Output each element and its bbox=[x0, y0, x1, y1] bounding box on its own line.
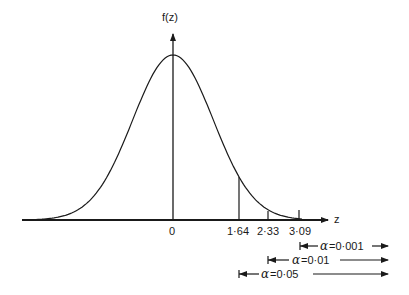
x-axis-label: z bbox=[334, 213, 340, 225]
origin-label: 0 bbox=[169, 225, 175, 237]
alpha-0-01-range: α =0·01 bbox=[268, 253, 388, 267]
y-axis-label: f(z) bbox=[162, 11, 178, 23]
alpha-0-05-range: α =0·05 bbox=[239, 267, 388, 281]
critical-label-1-64: 1·64 bbox=[227, 225, 249, 237]
normal-distribution-diagram: z f(z) 0 1·64 2·33 3·09 α =0·001 α =0·01… bbox=[0, 0, 409, 295]
normal-curve bbox=[28, 55, 302, 220]
critical-label-3-09: 3·09 bbox=[289, 225, 311, 237]
critical-label-2-33: 2·33 bbox=[257, 225, 279, 237]
alpha-0-001-range: α =0·001 bbox=[300, 239, 388, 253]
svg-text:=0·01: =0·01 bbox=[301, 254, 329, 266]
svg-text:α: α bbox=[261, 267, 269, 281]
svg-text:=0·05: =0·05 bbox=[270, 268, 298, 280]
svg-text:α: α bbox=[320, 239, 328, 253]
svg-text:α: α bbox=[292, 253, 300, 267]
svg-text:=0·001: =0·001 bbox=[329, 240, 364, 252]
